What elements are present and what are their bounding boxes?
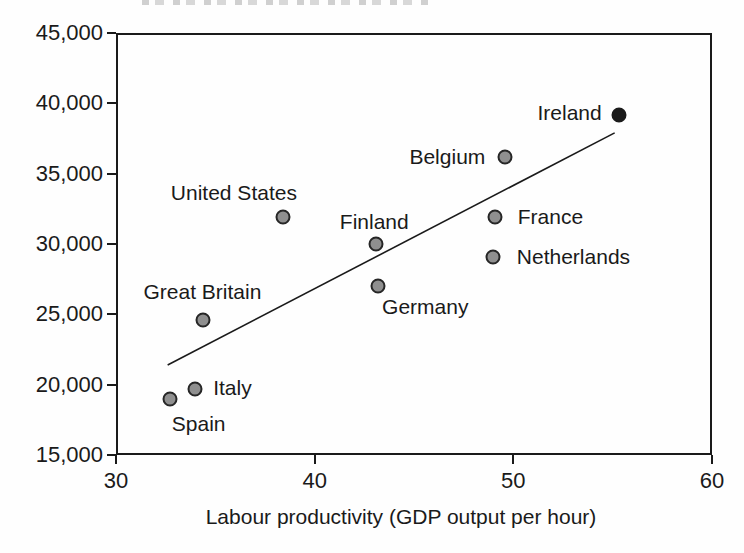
- point-label-united-states: United States: [171, 182, 297, 205]
- data-point-germany: [371, 279, 386, 294]
- data-point-finland: [369, 237, 384, 252]
- point-label-italy: Italy: [213, 376, 252, 399]
- scatter-chart-figure: Labour productivity (GDP output per hour…: [0, 0, 744, 553]
- point-label-finland: Finland: [340, 210, 409, 233]
- point-label-germany: Germany: [382, 296, 468, 319]
- data-point-france: [488, 210, 503, 225]
- data-point-netherlands: [486, 249, 501, 264]
- data-point-italy: [188, 381, 203, 396]
- data-point-spain: [162, 391, 177, 406]
- data-point-ireland: [611, 107, 626, 122]
- y-tick-label-45000: 45,000: [36, 20, 103, 46]
- data-point-belgium: [498, 149, 513, 164]
- plot-frame: [116, 33, 712, 455]
- y-tick-label-40000: 40,000: [36, 90, 103, 116]
- x-tick-30: [115, 455, 117, 464]
- x-tick-label-30: 30: [104, 468, 128, 494]
- point-label-belgium: Belgium: [409, 145, 485, 168]
- y-tick-label-20000: 20,000: [36, 372, 103, 398]
- y-tick-label-15000: 15,000: [36, 442, 103, 468]
- point-label-france: France: [518, 206, 583, 229]
- point-label-spain: Spain: [172, 412, 226, 435]
- y-tick-label-35000: 35,000: [36, 161, 103, 187]
- y-tick-label-25000: 25,000: [36, 301, 103, 327]
- y-tick-30000: [107, 243, 116, 245]
- y-tick-25000: [107, 313, 116, 315]
- x-tick-label-40: 40: [302, 468, 326, 494]
- point-label-ireland: Ireland: [538, 101, 602, 124]
- x-tick-60: [711, 455, 713, 464]
- data-point-united-states: [275, 210, 290, 225]
- y-tick-45000: [107, 32, 116, 34]
- x-tick-50: [512, 455, 514, 464]
- point-label-netherlands: Netherlands: [517, 245, 630, 268]
- x-tick-40: [314, 455, 316, 464]
- y-tick-20000: [107, 384, 116, 386]
- x-tick-label-60: 60: [700, 468, 724, 494]
- y-tick-label-30000: 30,000: [36, 231, 103, 257]
- data-point-great-britain: [196, 312, 211, 327]
- point-label-great-britain: Great Britain: [143, 280, 261, 303]
- y-tick-15000: [107, 454, 116, 456]
- y-tick-40000: [107, 102, 116, 104]
- y-tick-35000: [107, 173, 116, 175]
- x-tick-label-50: 50: [501, 468, 525, 494]
- x-axis-title: Labour productivity (GDP output per hour…: [206, 505, 597, 529]
